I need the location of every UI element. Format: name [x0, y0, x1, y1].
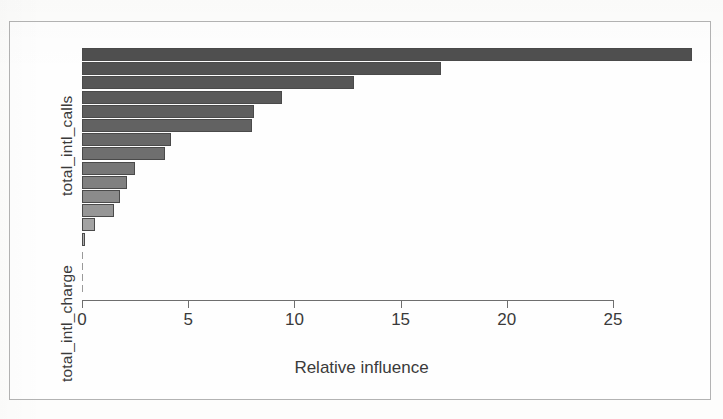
bar: [82, 176, 127, 189]
bar: [82, 147, 165, 160]
x-tick-label: 20: [497, 310, 516, 330]
x-tick-mark: [507, 300, 508, 308]
x-axis-line: [82, 300, 613, 301]
bar: [82, 218, 95, 231]
bar: [82, 204, 114, 217]
x-tick-label: 25: [604, 310, 623, 330]
relative-influence-bar-chart: total_intl_calls total_intl_charge 05101…: [0, 0, 723, 419]
bar: [82, 105, 254, 118]
bar: [82, 133, 171, 146]
x-tick-mark: [188, 300, 189, 308]
x-tick-label: 0: [77, 310, 86, 330]
x-tick-mark: [613, 300, 614, 308]
x-tick-mark: [82, 300, 83, 308]
x-axis-title: Relative influence: [0, 358, 723, 378]
x-tick-label: 5: [183, 310, 192, 330]
bar: [82, 48, 692, 61]
bar: [82, 91, 282, 104]
x-tick-label: 10: [285, 310, 304, 330]
x-tick-mark: [401, 300, 402, 308]
y-axis-label-total-intl-calls: total_intl_calls: [58, 95, 76, 196]
y-axis-dashed-baseline: [82, 252, 83, 294]
x-tick-mark: [294, 300, 295, 308]
bar: [82, 76, 354, 89]
x-tick-label: 15: [391, 310, 410, 330]
screenshot-page: total_intl_calls total_intl_charge 05101…: [0, 0, 723, 419]
bar: [82, 190, 120, 203]
bar: [82, 62, 441, 75]
bar: [82, 119, 252, 132]
bar: [82, 162, 135, 175]
bar: [82, 233, 85, 246]
